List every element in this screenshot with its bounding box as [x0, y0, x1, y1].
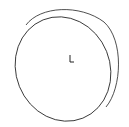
disc-shape	[0, 2, 126, 127]
front-face-ellipse	[0, 2, 126, 127]
origin-triad-icon	[70, 55, 74, 62]
disc-drawing	[0, 0, 129, 127]
back-rim-edge	[26, 10, 119, 107]
